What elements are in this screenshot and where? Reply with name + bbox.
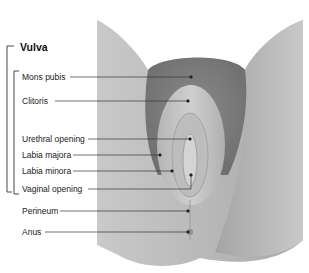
label-anus: Anus xyxy=(22,227,41,237)
label-vaginal-opening: Vaginal opening xyxy=(22,184,82,194)
central-shape xyxy=(183,134,197,186)
label-urethral-opening: Urethral opening xyxy=(22,134,85,144)
label-clitoris: Clitoris xyxy=(22,96,48,106)
label-mons-pubis: Mons pubis xyxy=(22,72,65,82)
vulva-group-bracket-inner xyxy=(14,71,19,194)
label-perineum: Perineum xyxy=(22,206,58,216)
label-labia-majora: Labia majora xyxy=(22,150,71,160)
vulva-group-bracket-outer xyxy=(7,46,14,192)
label-labia-minora: Labia minora xyxy=(22,166,71,176)
diagram-title: Vulva xyxy=(20,41,48,53)
